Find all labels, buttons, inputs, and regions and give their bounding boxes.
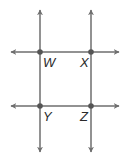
point-z	[88, 103, 94, 109]
label-y: Y	[43, 109, 53, 124]
label-z: Z	[79, 109, 89, 124]
point-w	[37, 49, 43, 55]
label-x: X	[79, 55, 90, 70]
diagram-canvas: W X Y Z	[0, 0, 131, 162]
point-x	[88, 49, 94, 55]
point-y	[37, 103, 43, 109]
label-w: W	[43, 55, 57, 70]
